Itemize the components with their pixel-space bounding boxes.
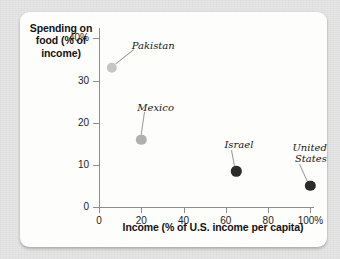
x-tick-0 (99, 207, 100, 213)
x-tick-20 (141, 207, 142, 213)
figure-card: Spending on food (% of income) 010203040… (20, 12, 327, 247)
data-point-united-states[interactable] (305, 181, 315, 191)
y-axis-title-line-3: income) (20, 47, 102, 59)
point-label-pakistan: Pakistan (132, 40, 175, 52)
x-tick-100% (310, 207, 311, 213)
leader-line-israel (231, 150, 235, 167)
point-label-line: Pakistan (132, 40, 175, 52)
x-axis-title: Income (% of U.S. income per capita) (99, 221, 327, 233)
y-tick-40% (93, 38, 99, 39)
x-tick-60 (226, 207, 227, 213)
x-axis-line (99, 207, 314, 208)
y-tick-20 (93, 123, 99, 124)
y-tick-label-40%: 40% (51, 32, 89, 43)
leader-line-pakistan (115, 50, 134, 65)
point-label-line: United (292, 142, 326, 154)
x-tick-80 (268, 207, 269, 213)
point-label-line: Mexico (137, 102, 174, 114)
y-tick-label-20: 20 (51, 117, 89, 128)
leader-line-united-states (300, 164, 309, 182)
point-label-line: States (292, 153, 326, 165)
x-tick-40 (184, 207, 185, 213)
y-tick-label-30: 30 (51, 75, 89, 86)
y-tick-label-10: 10 (51, 159, 89, 170)
data-point-pakistan[interactable] (106, 63, 116, 73)
y-tick-10 (93, 165, 99, 166)
point-label-mexico: Mexico (137, 102, 174, 114)
data-point-israel[interactable] (231, 166, 241, 176)
point-label-united-states: UnitedStates (292, 142, 326, 165)
point-label-line: Israel (224, 139, 253, 151)
point-label-israel: Israel (224, 139, 253, 151)
y-tick-label-0: 0 (51, 201, 89, 212)
y-axis-line (99, 28, 100, 207)
y-tick-30 (93, 81, 99, 82)
data-point-mexico[interactable] (136, 134, 146, 144)
leader-line-mexico (141, 112, 145, 134)
scatter-plot: Spending on food (% of income) 010203040… (20, 12, 327, 247)
